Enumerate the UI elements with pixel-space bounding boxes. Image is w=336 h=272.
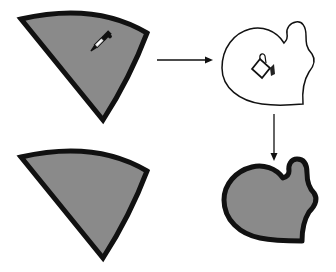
arrow-down <box>271 114 278 161</box>
filled-mitten-shape <box>224 159 316 241</box>
result-sector-shape <box>21 151 147 258</box>
source-sector-shape <box>21 13 147 120</box>
diagram-canvas <box>0 0 336 272</box>
target-mitten-outline <box>222 22 314 105</box>
arrow-right <box>157 57 213 64</box>
